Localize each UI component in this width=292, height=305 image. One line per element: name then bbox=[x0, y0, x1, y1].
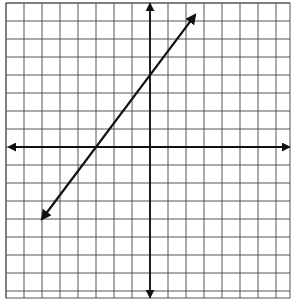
grid-border bbox=[6, 3, 290, 298]
grid-lines bbox=[6, 3, 290, 298]
line-with-arrows bbox=[42, 15, 195, 219]
coordinate-plane bbox=[0, 0, 292, 305]
plotted-line bbox=[42, 15, 195, 219]
axes bbox=[9, 4, 289, 297]
